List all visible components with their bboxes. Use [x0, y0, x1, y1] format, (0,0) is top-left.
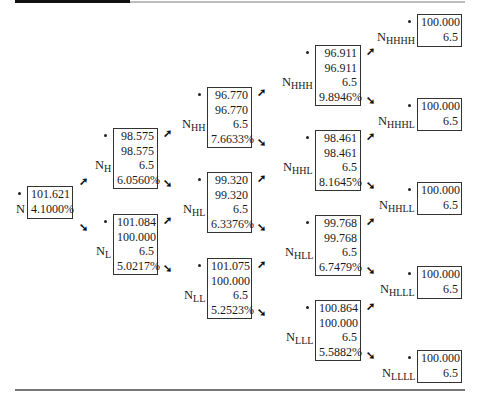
arrow-down-right-icon: ➘: [163, 178, 172, 189]
node-value: 100.000: [421, 267, 458, 282]
node-value: 99.768: [319, 231, 357, 246]
bullet-dot: [408, 188, 411, 191]
node-value: 6.5: [421, 198, 458, 213]
arrow-up-right-icon: ➚: [257, 173, 266, 184]
node-value: 98.575: [117, 129, 154, 144]
node-box-nllll: 100.0006.5: [417, 350, 462, 383]
arrow-down-right-icon: ➘: [257, 137, 266, 148]
node-label: NHHHL: [378, 114, 415, 130]
node-value: 101.075: [211, 259, 248, 274]
node-label: NLLL: [286, 330, 313, 346]
bullet-dot: [408, 272, 411, 275]
node-value: 100.000: [421, 351, 458, 366]
node-value: 6.5: [319, 245, 357, 260]
bullet-dot: [104, 220, 107, 223]
node-value: 100.000: [421, 15, 458, 30]
node-value: 6.0560%: [117, 173, 154, 188]
node-value: 6.5: [421, 30, 458, 45]
node-value: 6.5: [211, 117, 248, 132]
node-value: 96.911: [319, 46, 357, 61]
node-label: NHHH: [282, 75, 313, 91]
top-rule-black: [15, 0, 130, 3]
node-value: 6.5: [319, 160, 357, 175]
node-box-n: 101.6214.1000%: [27, 186, 73, 219]
bullet-dot: [408, 356, 411, 359]
bullet-dot: [306, 51, 309, 54]
bullet-dot: [306, 136, 309, 139]
node-label: NHLLL: [380, 282, 415, 298]
node-value: 96.770: [211, 103, 248, 118]
node-value: 8.1645%: [319, 175, 357, 190]
arrow-up-right-icon: ➚: [163, 128, 172, 139]
node-value: 6.5: [421, 366, 458, 381]
node-value: 6.5: [117, 158, 154, 173]
bullet-dot: [104, 134, 107, 137]
arrow-down-right-icon: ➘: [257, 307, 266, 318]
node-label: NHHHH: [377, 30, 415, 46]
arrow-down-right-icon: ➘: [366, 180, 375, 191]
node-box-nhh: 96.77096.7706.57.6633%: [207, 87, 252, 148]
bullet-dot: [18, 192, 21, 195]
node-value: 6.5: [421, 282, 458, 297]
node-value: 6.5: [211, 288, 248, 303]
node-value: 6.3376%: [211, 217, 248, 232]
node-box-nhhhh: 100.0006.5: [417, 14, 462, 47]
node-value: 6.5: [211, 202, 248, 217]
node-value: 6.5: [319, 330, 357, 345]
arrow-up-right-icon: ➚: [257, 87, 266, 98]
node-box-nhhl: 98.46198.4616.58.1645%: [315, 130, 361, 191]
node-value: 6.5: [319, 75, 357, 90]
node-value: 6.7479%: [319, 260, 357, 275]
node-label: NHHL: [283, 160, 313, 176]
bullet-dot: [198, 93, 201, 96]
arrow-up-right-icon: ➚: [366, 301, 375, 312]
bullet-dot: [306, 221, 309, 224]
arrow-down-right-icon: ➘: [366, 350, 375, 361]
node-value: 9.8946%: [319, 90, 357, 105]
arrow-up-right-icon: ➚: [366, 46, 375, 57]
node-label: NL: [96, 244, 111, 260]
arrow-up-right-icon: ➚: [366, 131, 375, 142]
node-box-nlll: 100.864100.0006.55.5882%: [315, 300, 361, 361]
node-label: NHL: [183, 202, 205, 218]
node-label: NLLLL: [382, 366, 415, 382]
node-box-nh: 98.57598.5756.56.0560%: [113, 128, 158, 189]
node-box-nhhll: 100.0006.5: [417, 182, 462, 215]
node-value: 99.320: [211, 173, 248, 188]
arrow-down-right-icon: ➘: [257, 222, 266, 233]
node-value: 100.864: [319, 301, 357, 316]
arrow-up-right-icon: ➚: [79, 176, 88, 187]
node-value: 100.000: [319, 316, 357, 331]
node-label: NHH: [182, 117, 205, 133]
node-box-nhhh: 96.91196.9116.59.8946%: [315, 45, 361, 106]
node-box-nll: 101.075100.0006.55.2523%: [207, 258, 252, 319]
node-value: 98.575: [117, 144, 154, 159]
node-value: 101.084: [117, 215, 154, 230]
arrow-down-right-icon: ➘: [79, 222, 88, 233]
node-label: NHHLL: [379, 198, 415, 214]
node-value: 101.621: [31, 187, 69, 202]
node-label: N: [16, 202, 25, 217]
node-value: 100.000: [421, 183, 458, 198]
node-value: 100.000: [117, 230, 154, 245]
arrow-up-right-icon: ➚: [257, 259, 266, 270]
node-value: 5.0217%: [117, 259, 154, 274]
node-label: NH: [95, 158, 111, 174]
node-box-nhl: 99.32099.3206.56.3376%: [207, 172, 252, 233]
arrow-down-right-icon: ➘: [366, 265, 375, 276]
arrow-up-right-icon: ➚: [163, 215, 172, 226]
node-value: 100.000: [211, 274, 248, 289]
bullet-dot: [408, 20, 411, 23]
bullet-dot: [408, 104, 411, 107]
arrow-down-right-icon: ➘: [366, 95, 375, 106]
node-value: 96.770: [211, 88, 248, 103]
bullet-dot: [198, 178, 201, 181]
node-label: NLL: [184, 288, 205, 304]
arrow-up-right-icon: ➚: [366, 216, 375, 227]
node-value: 99.768: [319, 216, 357, 231]
node-value: 100.000: [421, 99, 458, 114]
arrow-down-right-icon: ➘: [163, 263, 172, 274]
node-value: 6.5: [117, 244, 154, 259]
node-value: 98.461: [319, 131, 357, 146]
node-box-nl: 101.084100.0006.55.0217%: [113, 214, 158, 275]
